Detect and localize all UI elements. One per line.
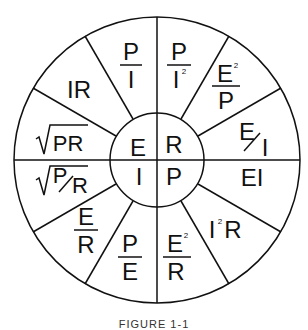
svg-text:2: 2 <box>234 61 239 70</box>
segment-ir: IR <box>67 76 91 103</box>
segment-p-over-i: P I <box>120 38 142 93</box>
svg-text:E: E <box>167 230 183 257</box>
svg-text:I: I <box>209 216 216 243</box>
svg-text:I: I <box>262 134 269 161</box>
segment-e-squared-over-p: E 2 P <box>212 60 240 114</box>
svg-text:P: P <box>122 230 138 257</box>
svg-text:P: P <box>171 38 187 65</box>
svg-text:P: P <box>218 87 234 114</box>
segment-ei: EI <box>241 164 264 191</box>
svg-text:2: 2 <box>182 67 187 76</box>
center-I: I <box>136 163 143 190</box>
center-E: E <box>130 134 146 161</box>
svg-text:P: P <box>123 38 139 65</box>
svg-text:E: E <box>78 203 94 230</box>
svg-text:R: R <box>77 231 94 258</box>
svg-text:2: 2 <box>218 217 223 226</box>
figure-caption: FIGURE 1-1 <box>0 318 308 330</box>
segment-p-over-i-squared: P I 2 <box>167 38 191 93</box>
svg-text:R: R <box>167 258 184 285</box>
segment-p-over-e: P E <box>118 230 142 285</box>
svg-text:2: 2 <box>184 231 189 240</box>
svg-text:R: R <box>224 216 241 243</box>
center-P: P <box>166 163 182 190</box>
svg-text:PR: PR <box>53 131 84 156</box>
segment-i-squared-r: I 2 R <box>209 216 242 243</box>
svg-text:R: R <box>72 173 88 198</box>
segment-e-over-r: E R <box>74 203 98 258</box>
segment-sqrt-p-over-r: P R <box>36 163 88 198</box>
center-R: R <box>165 131 182 158</box>
svg-text:I: I <box>128 66 135 93</box>
spoke <box>181 201 229 284</box>
svg-text:E: E <box>122 258 138 285</box>
segment-e-over-i: E I <box>239 118 268 161</box>
segment-e-squared-over-r: E 2 R <box>163 230 191 285</box>
segment-sqrt-pr: PR <box>36 125 88 156</box>
svg-text:I: I <box>173 66 180 93</box>
svg-text:E: E <box>217 60 233 87</box>
